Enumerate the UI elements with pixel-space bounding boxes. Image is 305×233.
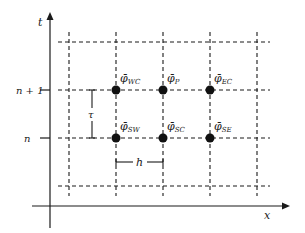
x-axis-label-visible: x [264, 209, 271, 222]
node-se [206, 134, 215, 143]
y-axis-label: t [38, 16, 43, 29]
node-label-wc: φ̄WC [120, 72, 141, 86]
node-sw [112, 134, 121, 143]
tick-label-n: n [24, 133, 30, 144]
y-axis-arrow-icon [47, 12, 54, 20]
node-labels: φ̄WC φ̄P φ̄EC φ̄SW φ̄SC φ̄SE [120, 72, 233, 134]
node-label-ec: φ̄EC [214, 72, 233, 86]
x-axis-arrow-icon [282, 203, 290, 210]
tau-label: τ [88, 109, 94, 120]
node-label-sw: φ̄SW [120, 120, 140, 134]
tick-label-n-plus-1: n + 1 [16, 85, 44, 96]
node-ec [206, 86, 215, 95]
finite-difference-stencil-diagram: t x n + 1 n τ h φ̄WC φ̄P φ̄EC [0, 0, 305, 233]
node-sc [159, 134, 168, 143]
node-label-sc: φ̄SC [167, 120, 185, 134]
h-label: h [136, 156, 143, 169]
node-label-p: φ̄P [167, 72, 180, 86]
node-label-se: φ̄SE [214, 120, 232, 134]
node-p [159, 86, 168, 95]
node-wc [112, 86, 121, 95]
